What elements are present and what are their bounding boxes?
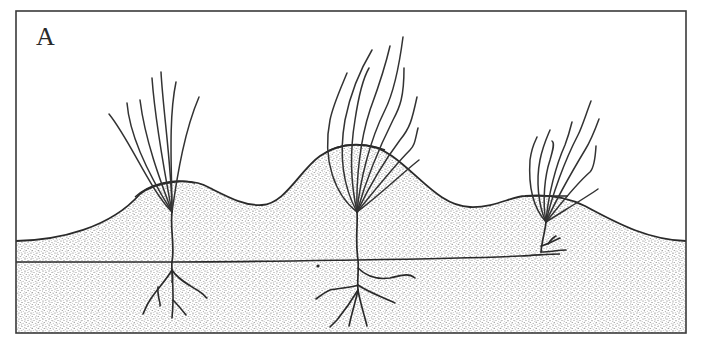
dune-illustration: A xyxy=(0,0,701,349)
pebble xyxy=(316,264,319,267)
dune-diagram-svg xyxy=(0,0,701,349)
panel-label: A xyxy=(36,24,55,50)
sand-body xyxy=(16,145,686,333)
